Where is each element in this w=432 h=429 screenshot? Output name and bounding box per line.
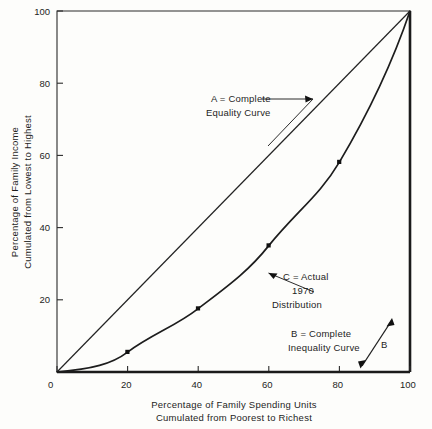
annotation-a: A = Complete Equality Curve (206, 93, 271, 118)
data-point-80 (337, 160, 341, 164)
y-axis-title: Percentage of Family Income Cumulated fr… (9, 115, 33, 269)
y-tick-label-100: 100 (34, 6, 50, 17)
y-tick-label-80: 80 (39, 78, 50, 89)
data-point-60 (267, 243, 271, 247)
x-tick-label-20: 20 (121, 379, 132, 390)
y-tick-marks (57, 11, 63, 300)
x-tick-label-40: 40 (192, 379, 203, 390)
y-tick-label-40: 40 (39, 222, 50, 233)
annotation-b-arrowhead-top (387, 318, 395, 327)
annotation-c: C = Actual 1970 Distribution (272, 271, 329, 310)
annotation-b-line1: B = Complete (291, 328, 351, 339)
x-axis-title-line1: Percentage of Family Spending Units (151, 399, 317, 410)
x-tick-label-100: 100 (400, 379, 416, 390)
x-tick-label-80: 80 (333, 379, 344, 390)
annotation-a-line2: Equality Curve (206, 107, 271, 118)
x-tick-labels: 0 20 40 60 80 100 (48, 379, 416, 390)
y-tick-label-60: 60 (39, 150, 50, 161)
annotation-c-line1: C = Actual (283, 271, 329, 282)
x-axis-title: Percentage of Family Spending Units Cumu… (151, 399, 317, 423)
y-axis-title-line2: Cumulated from Lowest to Highest (22, 115, 33, 269)
annotation-c-line3: Distribution (272, 299, 322, 310)
x-tick-label-60: 60 (262, 379, 273, 390)
data-point-40 (196, 306, 200, 310)
chart-canvas: 0 20 40 60 80 100 20 40 60 80 100 (0, 0, 432, 429)
annotation-a-arrowhead (305, 96, 313, 103)
x-axis-title-line2: Cumulated from Poorest to Richest (156, 412, 312, 423)
annotation-c-line2: 1970 (292, 285, 314, 296)
data-point-20 (125, 350, 129, 354)
annotation-b-arrowhead-bottom (358, 360, 366, 369)
lorenz-curve-figure: 0 20 40 60 80 100 20 40 60 80 100 (0, 0, 432, 429)
y-tick-label-20: 20 (39, 294, 50, 305)
annotation-a-line1: A = Complete (211, 93, 271, 104)
x-tick-label-0: 0 (48, 379, 53, 390)
annotation-b-line2: Inequality Curve (288, 342, 360, 353)
lorenz-data-points (125, 160, 341, 354)
y-axis-title-line1: Percentage of Family Income (9, 127, 20, 257)
annotation-b-letter: B (381, 339, 388, 350)
equality-curve (57, 11, 410, 372)
y-tick-labels: 20 40 60 80 100 (34, 6, 50, 305)
